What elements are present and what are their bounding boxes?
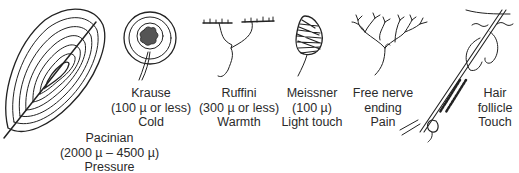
meissner-sensation: Light touch [272,115,352,130]
free-nerve-label: Free nerve ending Pain [348,86,418,130]
ruffini-sensation: Warmth [194,115,284,130]
ruffini-label: Ruffini (300 µ or less) Warmth [194,86,284,130]
krause-label: Krause (100 µ or less) Cold [106,86,196,130]
pacinian-corpuscle-icon [4,9,105,138]
pacinian-label: Pacinian (2000 µ – 4500 µ) Pressure [52,131,167,173]
hair-follicle-size: follicle [470,101,519,116]
krause-end-bulb-icon [124,12,176,80]
ruffini-name: Ruffini [194,86,284,101]
hair-follicle-label: Hair follicle Touch [470,86,519,130]
hair-follicle-sensation: Touch [470,115,519,130]
meissner-label: Meissner (100 µ) Light touch [272,86,352,130]
meissner-size: (100 µ) [272,101,352,116]
meissner-name: Meissner [272,86,352,101]
pacinian-size: (2000 µ – 4500 µ) [52,146,167,161]
krause-name: Krause [106,86,196,101]
meissner-corpuscle-icon [296,16,322,76]
pacinian-name: Pacinian [52,131,167,146]
free-nerve-size: ending [348,101,418,116]
ruffini-ending-icon [203,17,274,77]
free-nerve-ending-icon [352,13,427,75]
ruffini-size: (300 µ or less) [194,101,284,116]
free-nerve-sensation: Pain [348,115,418,130]
krause-sensation: Cold [106,115,196,130]
free-nerve-name: Free nerve [348,86,418,101]
pacinian-sensation: Pressure [52,160,167,173]
hair-follicle-name: Hair [470,86,519,101]
krause-size: (100 µ or less) [106,101,196,116]
